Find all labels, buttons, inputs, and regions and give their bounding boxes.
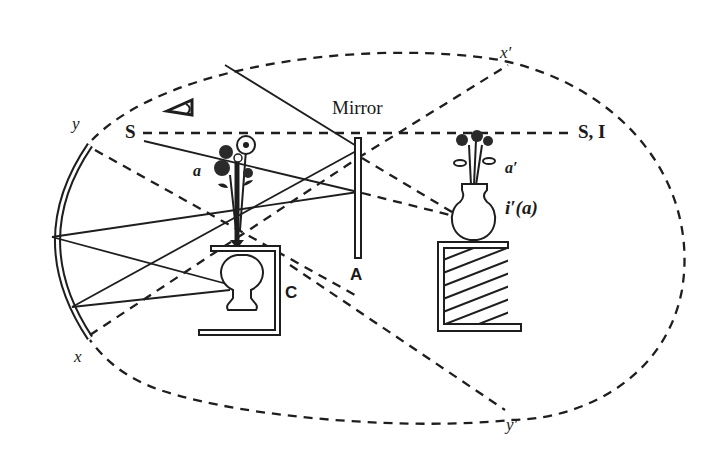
source-label: S <box>125 121 136 142</box>
diagram-canvas: Mirror A C S S, I a a′ i′(a) x x′ y y′ <box>0 0 719 467</box>
vase-inverted-icon <box>221 255 263 310</box>
box-c <box>199 246 280 335</box>
mirror-point-label: A <box>350 265 362 284</box>
dashed-ray-to-image-1 <box>362 158 452 212</box>
flower-bouquet-icon <box>214 136 255 245</box>
box-label: C <box>285 283 297 302</box>
object-label: a <box>193 162 201 179</box>
x-label: x <box>73 347 82 366</box>
image-label: i′(a) <box>505 197 538 219</box>
x-prime-label: x′ <box>499 43 512 62</box>
plane-mirror <box>355 138 361 258</box>
y-label: y <box>70 114 80 133</box>
y-prime-label: y′ <box>504 415 518 434</box>
flower-bouquet-image-icon <box>454 130 495 185</box>
vase-icon <box>452 184 495 240</box>
object-image-label: a′ <box>505 159 518 176</box>
optics-diagram: Mirror A C S S, I a a′ i′(a) x x′ y y′ <box>0 0 719 467</box>
concave-mirror <box>58 145 91 338</box>
eye-icon <box>167 100 192 115</box>
pedestal <box>430 230 521 356</box>
mirror-label: Mirror <box>332 97 383 118</box>
source-image-label: S, I <box>578 121 605 142</box>
